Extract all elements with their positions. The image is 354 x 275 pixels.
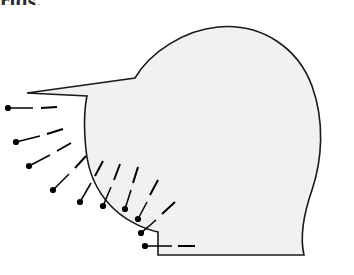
- geometry-diagram: [0, 0, 354, 275]
- normal-vector-1: [5, 105, 57, 111]
- boundary-point-marker-7: [122, 206, 128, 212]
- boundary-point-marker-8: [135, 216, 141, 222]
- boundary-point-marker-6: [100, 203, 106, 209]
- boundary-point-marker-3: [26, 163, 32, 169]
- normal-vector-2: [13, 129, 63, 145]
- boundary-point-marker-5: [77, 199, 83, 205]
- normal-leader-line-5: [80, 183, 91, 202]
- normal-inner-dash-3: [57, 143, 71, 151]
- normal-leader-line-3: [29, 155, 50, 166]
- normal-vector-4: [50, 156, 86, 193]
- normal-leader-line-4: [53, 174, 69, 190]
- normal-vector-3: [26, 143, 71, 169]
- boundary-point-marker-10: [142, 243, 148, 249]
- boundary-point-marker-9: [138, 230, 144, 236]
- normal-inner-dash-4: [75, 156, 86, 168]
- normal-inner-dash-2: [47, 129, 63, 134]
- boundary-point-marker-2: [13, 139, 19, 145]
- boundary-point-marker-1: [5, 105, 11, 111]
- normal-inner-dash-1: [41, 107, 57, 108]
- figure-container: rids.: [0, 0, 354, 275]
- boundary-point-marker-4: [50, 187, 56, 193]
- shaded-region-path: [27, 27, 321, 255]
- normal-leader-line-2: [16, 136, 40, 142]
